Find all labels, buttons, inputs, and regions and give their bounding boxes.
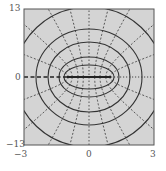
y-tick-zero: 0 bbox=[15, 73, 21, 82]
x-tick-right: 3 bbox=[150, 150, 156, 159]
y-tick-bottom: −13 bbox=[6, 140, 25, 149]
x-tick-zero: 0 bbox=[86, 150, 92, 159]
x-tick-left: −3 bbox=[14, 150, 27, 159]
y-tick-top: 13 bbox=[9, 4, 20, 13]
